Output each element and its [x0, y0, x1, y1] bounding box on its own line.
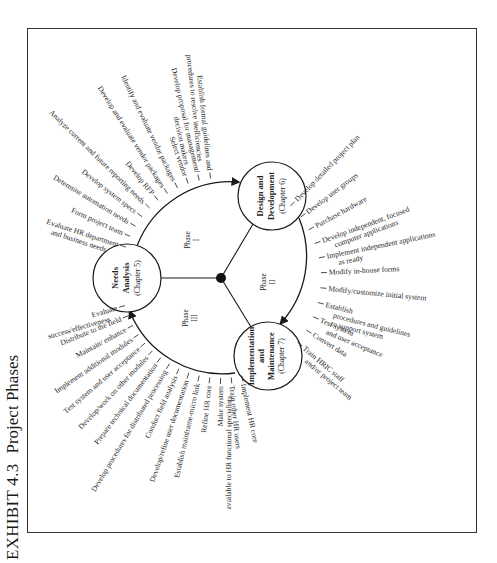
- task-tick: [157, 358, 161, 363]
- hub-chapter: (Chapter 6): [278, 178, 287, 214]
- task-tick: [321, 288, 327, 289]
- task-tick: [166, 364, 169, 369]
- spokes: [161, 224, 253, 327]
- hub-label: Maintenance: [266, 332, 276, 380]
- task-tick: [318, 303, 324, 304]
- hub-label: Implementation: [246, 326, 256, 385]
- hub-label: Design and: [255, 175, 265, 216]
- task-tick: [154, 196, 158, 201]
- phase-1-label: Phase I: [183, 231, 201, 249]
- task-tick: [130, 223, 135, 226]
- task-tick: [123, 316, 129, 318]
- task-tick: [187, 373, 189, 379]
- svg-text:Phase: Phase: [183, 231, 192, 249]
- svg-text:Phase: Phase: [259, 273, 268, 291]
- task-tick: [175, 183, 178, 188]
- svg-text:III: III: [190, 314, 199, 322]
- hub-label: Development: [266, 172, 276, 220]
- hub-label: Analysis: [121, 262, 131, 294]
- task-tick: [319, 257, 325, 258]
- hub-chapter: (Chapter 5): [133, 260, 142, 296]
- hub-label: Needs: [110, 266, 120, 289]
- task-label: Make systemavailable to HR functional sp…: [215, 386, 233, 510]
- svg-text:II: II: [268, 279, 277, 285]
- task-tick: [140, 343, 145, 347]
- task-tick: [198, 376, 199, 382]
- task-tick: [125, 234, 130, 236]
- task-tick: [134, 335, 139, 338]
- task-label: Refine HR core: [199, 384, 213, 433]
- task-tick: [164, 189, 167, 194]
- task-tick: [145, 204, 149, 208]
- task-label: Modify/customize initial system: [328, 284, 427, 303]
- task-label: Analyze current and future reporting nee…: [47, 108, 147, 206]
- task-tick: [306, 330, 311, 333]
- hub-label: and: [256, 349, 266, 363]
- phase-3-label: Phase III: [181, 309, 199, 327]
- phase-2-label: Phase II: [259, 273, 277, 291]
- svg-text:Phase: Phase: [181, 309, 190, 327]
- task-tick: [176, 369, 179, 374]
- project-phases-diagram: Needs Analysis (Chapter 5) Design and De…: [0, 0, 497, 563]
- task-tick: [309, 227, 314, 230]
- task-tick: [128, 325, 133, 328]
- svg-text:I: I: [192, 238, 201, 241]
- task-tick: [148, 351, 152, 355]
- task-tick: [186, 178, 188, 184]
- center-dot: [216, 273, 226, 283]
- hub-needs-analysis: Needs Analysis (Chapter 5): [93, 244, 161, 312]
- task-tick: [209, 377, 210, 383]
- task-tick: [210, 173, 211, 179]
- task-tick: [313, 317, 319, 319]
- hub-implementation-maintenance: Implementation and Maintenance (Chapter …: [234, 322, 302, 390]
- task-tick: [315, 241, 321, 243]
- task-tick: [198, 175, 199, 181]
- hub-chapter: (Chapter 7): [277, 338, 286, 374]
- task-label: Train HRIC staffand/or project team: [295, 344, 359, 402]
- task-tick: [231, 377, 232, 383]
- task-tick: [137, 213, 142, 217]
- arc-phase2: [281, 218, 307, 323]
